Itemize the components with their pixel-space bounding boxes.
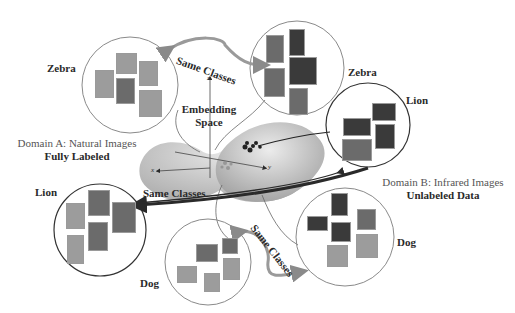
dog-a-label: Dog <box>140 277 159 289</box>
zebra-a-label: Zebra <box>47 62 76 74</box>
lion-image <box>372 103 396 121</box>
domain-b-caption: Domain B: Infrared Images Unlabeled Data <box>378 176 508 202</box>
dog-image <box>356 234 378 258</box>
embedding-space-title-line2: Space <box>178 116 240 129</box>
lion-image <box>375 124 395 149</box>
zebra-image <box>95 70 114 98</box>
dog-image <box>204 273 220 292</box>
domain-a-subtitle: Fully Labeled <box>12 150 142 163</box>
zebra-image <box>139 90 162 117</box>
lion-image <box>66 203 85 229</box>
lion-image <box>112 202 136 233</box>
lion-image <box>343 118 371 136</box>
dog-image <box>307 216 328 231</box>
domain-adaptation-diagram: Zebra Zebra Lion Lion Dog Dog Same Class… <box>0 0 515 313</box>
dog-b-label: Dog <box>397 236 416 248</box>
domain-a-title: Domain A: Natural Images <box>12 137 142 150</box>
lion-image <box>342 139 372 161</box>
embedding-space-title-line1: Embedding <box>178 103 240 116</box>
dog-image <box>177 266 197 283</box>
zebra-image <box>116 78 135 104</box>
dog-image <box>222 238 238 254</box>
domain-a-caption: Domain A: Natural Images Fully Labeled <box>12 137 142 163</box>
domain-b-title: Domain B: Infrared Images <box>378 176 508 189</box>
lion-link-label: Same Classes <box>143 187 206 199</box>
zebra-image <box>266 35 284 63</box>
zebra-b-label: Zebra <box>348 66 377 78</box>
lion-b-label: Lion <box>406 94 428 106</box>
axis-y-label: y <box>268 163 271 171</box>
dog-image <box>357 209 376 230</box>
zebra-image <box>116 53 137 74</box>
axis-z-label: z <box>207 74 210 82</box>
dog-image <box>327 245 348 267</box>
lion-image <box>88 190 110 216</box>
embedding-space-title: Embedding Space <box>178 103 240 129</box>
axis-x-label: x <box>151 166 154 174</box>
zebra-image <box>289 29 305 56</box>
zebra-image <box>289 57 317 85</box>
dog-image <box>331 222 351 242</box>
zebra-image <box>264 68 285 97</box>
dog-image <box>331 193 348 216</box>
zebra-image <box>289 88 308 115</box>
zebra-image <box>139 61 158 86</box>
lion-a-label: Lion <box>35 186 57 198</box>
dog-image <box>223 258 240 280</box>
domain-b-subtitle: Unlabeled Data <box>378 189 508 202</box>
lion-image <box>67 235 84 264</box>
dog-image <box>196 244 218 262</box>
lion-image <box>88 222 108 251</box>
